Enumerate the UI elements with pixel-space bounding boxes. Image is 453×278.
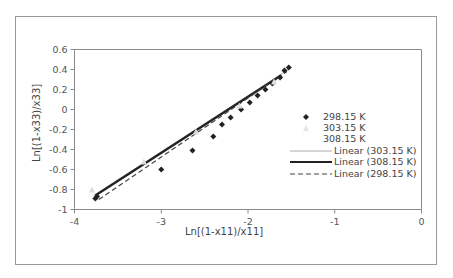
y-tick-label: 0.4 — [52, 64, 67, 75]
y-tick-label: -0.8 — [49, 184, 68, 195]
x-axis-title: Ln[(1-x11)/x11] — [185, 226, 263, 237]
x-tick-label: -3 — [157, 216, 166, 227]
legend-label: Linear (298.15 K) — [334, 168, 416, 179]
legend-label: 298.15 K — [323, 111, 366, 122]
x-tick-label: -4 — [70, 216, 79, 227]
y-axis-ticks: 0.60.40.20-0.2-0.4-0.6-0.8-1 — [49, 44, 75, 215]
y-axis-title: Ln[(1-x33)/x33] — [31, 84, 42, 162]
x-tick-label: -1 — [330, 216, 339, 227]
y-tick-label: 0.2 — [52, 84, 67, 95]
y-tick-label: 0 — [61, 104, 67, 115]
y-tick-label: -0.4 — [49, 144, 68, 155]
legend-label: 303.15 K — [323, 122, 366, 133]
legend-label: Linear (303.15 K) — [334, 145, 416, 156]
x-tick-label: 0 — [418, 216, 424, 227]
legend-label: 308.15 K — [323, 133, 366, 144]
y-tick-label: -0.6 — [49, 164, 68, 175]
y-tick-label: 0.6 — [52, 44, 67, 55]
legend-label: Linear (308.15 K) — [334, 156, 416, 167]
chart: 0.60.40.20-0.2-0.4-0.6-0.8-1 -4-3-2-10 L… — [0, 0, 453, 278]
y-tick-label: -1 — [58, 204, 67, 215]
x-tick-label: -2 — [243, 216, 252, 227]
y-tick-label: -0.2 — [49, 124, 68, 135]
